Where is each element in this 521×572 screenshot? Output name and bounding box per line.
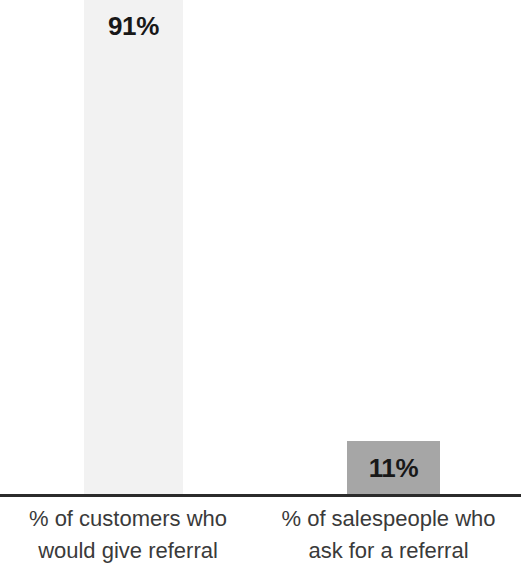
bar-customers-would-give-referral[interactable]: 91%	[84, 0, 183, 494]
plot-area: 91% 11%	[0, 0, 521, 497]
category-label-salespeople: % of salespeople who ask for a referral	[256, 503, 521, 567]
category-label-line-2: would give referral	[0, 535, 256, 567]
bar-value-label: 11%	[347, 453, 440, 484]
bar-salespeople-ask-for-referral[interactable]: 11%	[347, 441, 440, 494]
category-axis-line	[0, 494, 521, 497]
category-label-line-2: ask for a referral	[256, 535, 521, 567]
bar-value-label: 91%	[84, 11, 183, 42]
category-label-line-1: % of salespeople who	[256, 503, 521, 535]
category-label-line-1: % of customers who	[0, 503, 256, 535]
bar-chart: 91% 11% % of customers who would give re…	[0, 0, 521, 572]
category-label-customers: % of customers who would give referral	[0, 503, 256, 567]
category-axis-labels: % of customers who would give referral %…	[0, 503, 521, 567]
